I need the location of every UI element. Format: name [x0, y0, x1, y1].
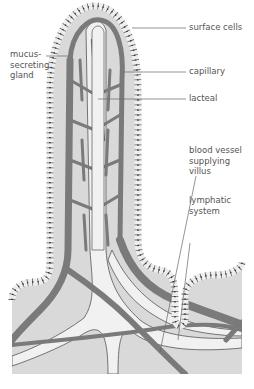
- label-blood-vessel-supplying-villus: blood vessel supplying villus: [189, 145, 242, 177]
- label-capillary: capillary: [189, 66, 225, 77]
- lacteal-core: [92, 26, 104, 250]
- label-lymphatic-system: lymphatic system: [189, 195, 231, 216]
- label-mucus-secreting-gland: mucus- secreting gland: [10, 49, 49, 81]
- label-surface-cells: surface cells: [189, 22, 242, 33]
- label-lacteal: lacteal: [189, 93, 217, 104]
